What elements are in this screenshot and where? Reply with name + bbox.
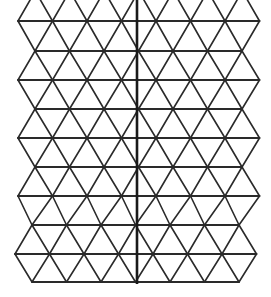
triangle-grid-diagram (0, 0, 271, 297)
triangle-grid-svg (0, 0, 271, 297)
